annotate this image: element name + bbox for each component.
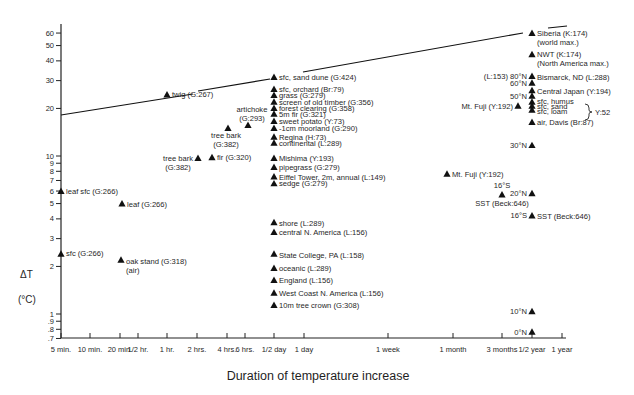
point-prefix-label: 10°N [510,307,527,316]
triangle-marker-icon [270,173,277,179]
data-point: leaf (G:266) [118,200,167,209]
data-point: State College, PA (L:158) [270,250,364,260]
temperature-duration-chart: 605040302010987654321.9.8.7 5 min.10 min… [0,0,634,395]
y-tick-label: 8 [50,167,54,176]
y-axis-title: ΔT [20,269,33,280]
point-label: air, Davis (Br:87) [537,118,594,127]
data-point: England (L:156) [270,276,333,285]
point-label: West Coast N. America (L:156) [279,289,384,298]
data-point: sfc, sand dune (G:424) [270,73,356,82]
triangle-marker-icon [270,73,277,79]
data-point: air, Davis (Br:87) [528,118,594,127]
data-point: leaf sfc (G:266) [57,187,118,196]
triangle-marker-icon [270,250,277,256]
point-prefix-label: 20°N [510,189,527,198]
triangle-marker-icon [528,51,535,57]
point-prefix-label: 60°N [510,79,527,88]
triangle-marker-icon [270,219,277,225]
point-prefix-label: 30°N [510,141,527,150]
triangle-marker-icon [270,289,277,295]
triangle-marker-icon [270,98,277,104]
triangle-marker-icon [270,133,277,139]
point-label: Bismarck, ND (L:288) [537,73,610,82]
x-tick-label: 6 hrs. [236,345,255,354]
point-label: sfc (G:266) [66,249,104,258]
triangle-marker-icon [270,104,277,110]
y-ticks: 605040302010987654321.9.8.7 [46,29,61,343]
point-label: pipegrass (G:279) [279,163,340,172]
triangle-marker-icon [208,154,215,160]
x-tick-label: 5 min. [51,345,71,354]
data-point: 30°N [510,141,536,150]
x-tick-label: 1 month [439,345,466,354]
triangle-marker-icon [118,200,125,206]
triangle-marker-icon [270,139,277,145]
x-tick-label: 1/2 day [262,345,287,354]
triangle-marker-icon [270,301,277,307]
point-label: State College, PA (L:158) [279,251,365,260]
data-point: pipegrass (G:279) [270,163,340,172]
triangle-marker-icon [528,73,535,79]
data-point: tree bark(G:382) [163,154,202,172]
point-label: Siberia (K:174) [537,29,588,38]
point-label: fir (G:320) [217,153,252,162]
y-tick-label: 40 [46,56,54,65]
x-tick-label: 1 day [295,345,314,354]
point-label: leaf (G:266) [127,200,168,209]
bracket-label: Y:52 [595,108,610,117]
point-label: sedge (G:279) [279,179,328,188]
point-label: SST (Beck:646) [537,212,591,221]
data-point: 16°SSST (Beck:646) [510,211,590,221]
y-axis-unit: (°C) [18,294,36,305]
point-label: Central Japan (Y:194) [537,87,611,96]
data-point: oceanic (L:289) [270,264,331,273]
data-point: 60°N [510,79,536,88]
data-point: shore (L:289) [270,219,324,228]
point-label: continental (L:289) [279,139,342,148]
data-point: Siberia (K:174)(world max.) [528,29,588,47]
y52-bracket: Y:52 [585,104,610,120]
point-label: 10m tree crown (G:308) [279,301,360,310]
triangle-marker-icon [270,125,277,131]
point-label: oceanic (L:289) [279,264,332,273]
y-tick-label: 4 [50,214,54,223]
point-label: tree bark [211,131,241,140]
triangle-marker-icon [270,154,277,160]
y-tick-label: 30 [46,76,54,85]
chart-canvas: 605040302010987654321.9.8.7 5 min.10 min… [0,0,634,395]
triangle-marker-icon [270,118,277,124]
x-tick-label: 2 hrs. [188,345,207,354]
triangle-marker-icon [194,154,201,160]
y-tick-label: 50 [46,41,54,50]
data-point: fir (G:320) [208,153,251,162]
point-label-line2: (G:382) [165,163,191,172]
x-tick-label: 10 min. [78,345,103,354]
point-label: England (L:156) [279,276,334,285]
triangle-marker-icon [528,308,535,314]
point-label: sfc, sand dune (G:424) [279,73,357,82]
point-label: central N. America (L:156) [279,228,368,237]
triangle-marker-icon [270,276,277,282]
x-tick-label: 1 hr. [160,345,175,354]
point-label-line2: (air) [126,266,140,275]
x-tick-label: 1/2 year [518,345,546,354]
point-label: shore (L:289) [279,219,325,228]
triangle-marker-icon [528,328,535,334]
point-label-line2: (North America max.) [537,59,609,68]
point-prefix-label: 16°S [510,211,527,220]
data-point: Mt. Fuji (Y:192) [443,170,504,179]
x-tick-label: 1 week [376,345,400,354]
triangle-marker-icon [528,212,535,218]
data-point: artichoke(G:293) [237,105,268,128]
triangle-marker-icon [514,102,521,108]
point-label-line2: (G:293) [239,114,265,123]
data-point: NWT (K:174)(North America max.) [528,50,609,68]
y-tick-label: 2 [50,262,54,271]
triangle-marker-icon [443,170,450,176]
data-point: oak stand (G:318)(air) [117,256,187,275]
trend-segment [548,26,567,28]
triangle-marker-icon [498,191,505,197]
y-tick-label: .8 [48,325,54,334]
triangle-marker-icon [270,265,277,271]
triangle-marker-icon [57,250,64,256]
